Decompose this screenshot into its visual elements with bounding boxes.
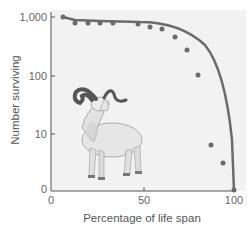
x-tick-label: 0: [48, 194, 54, 206]
y-axis-label: Number surviving: [9, 55, 21, 144]
data-point: [148, 25, 153, 30]
y-tick-label: 1,000: [19, 11, 47, 23]
y-ticks: 1,000 100 10 0: [19, 11, 55, 195]
data-point: [111, 21, 116, 26]
y-tick-label: 10: [35, 128, 47, 140]
data-point: [73, 21, 78, 26]
data-point: [61, 15, 66, 20]
data-point: [221, 161, 226, 166]
data-point: [185, 48, 190, 53]
x-tick-label: 100: [225, 194, 243, 206]
data-point: [209, 143, 214, 148]
x-axis-label: Percentage of life span: [83, 212, 201, 224]
data-point: [98, 21, 103, 26]
data-point: [196, 73, 201, 78]
data-point: [232, 188, 237, 193]
y-tick-label: 100: [29, 70, 47, 82]
x-tick-label: 50: [138, 194, 150, 206]
data-point: [160, 27, 165, 32]
data-point: [86, 21, 91, 26]
data-point: [173, 35, 178, 40]
survivorship-chart: 1,000 100 10 0 0 50 100 Percentage of li…: [0, 0, 250, 231]
y-tick-label: 0: [41, 183, 47, 195]
data-point: [136, 22, 141, 27]
